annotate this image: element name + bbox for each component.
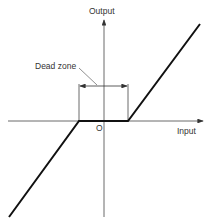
dead-zone-label: Dead zone — [35, 61, 76, 71]
x-axis-label: Input — [177, 126, 196, 136]
annotation-leader — [79, 68, 97, 85]
origin-label: O — [96, 123, 103, 133]
characteristic-curve — [9, 24, 200, 217]
dead-zone-diagram — [0, 0, 210, 223]
y-axis-label: Output — [89, 6, 115, 16]
